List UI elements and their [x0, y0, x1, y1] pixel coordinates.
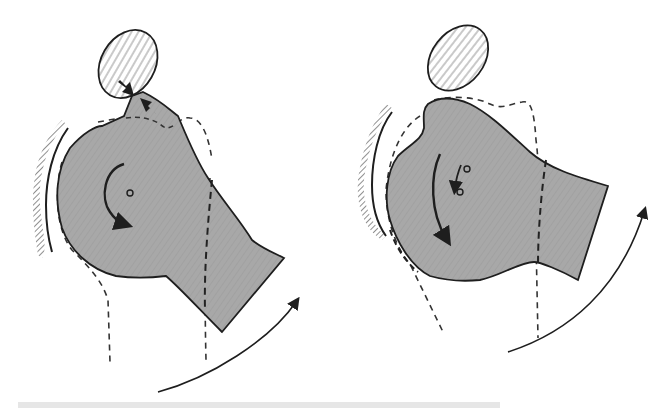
acromion-ellipse-left — [87, 19, 170, 108]
right-panel — [358, 14, 644, 352]
footer-band — [18, 402, 500, 408]
humeral-head-left — [57, 92, 284, 332]
left-panel — [33, 19, 296, 392]
humeral-head-right — [387, 99, 608, 281]
glenoid-hatched-right — [358, 104, 392, 240]
diagram-figure — [0, 0, 666, 414]
acromion-ellipse-right — [415, 14, 500, 103]
